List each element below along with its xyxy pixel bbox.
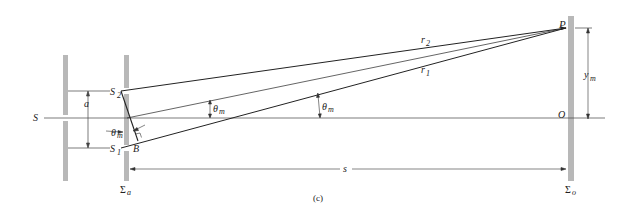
svg-text:o: o	[572, 188, 576, 197]
svg-text:a: a	[127, 188, 131, 197]
rays	[121, 28, 566, 148]
ym-label: y	[583, 69, 589, 80]
point-p-label: P	[558, 18, 566, 30]
svg-text:m: m	[219, 107, 225, 116]
double-slit-diagram: S a S 2 S 1 B θ m θ m θ m r 2 r 1 P O y …	[0, 0, 635, 216]
theta-right-label: θ	[322, 101, 327, 112]
slit-s1-label: S	[110, 143, 115, 154]
svg-text:2: 2	[426, 39, 430, 48]
origin-label: O	[558, 109, 565, 120]
sigma-a-label: Σ	[120, 184, 126, 195]
theta-mid-label: θ	[213, 103, 218, 114]
figure-caption: (c)	[313, 193, 323, 203]
svg-text:2: 2	[117, 91, 121, 100]
svg-text:m: m	[117, 131, 123, 140]
ray-r1-label: r	[421, 64, 425, 75]
distance-label: s	[343, 163, 347, 174]
point-b-label: B	[133, 143, 139, 154]
svg-text:m: m	[328, 105, 334, 114]
svg-text:m: m	[590, 74, 596, 83]
sigma-o-label: Σ	[565, 184, 571, 195]
slit-s2-label: S	[110, 86, 115, 97]
separation-label: a	[84, 98, 89, 109]
ray-r2-label: r	[421, 34, 425, 45]
svg-text:1: 1	[426, 69, 430, 78]
theta-slits-label: θ	[111, 127, 116, 138]
observation-screen	[568, 16, 574, 181]
svg-text:1: 1	[117, 148, 121, 157]
source-label: S	[33, 112, 38, 123]
